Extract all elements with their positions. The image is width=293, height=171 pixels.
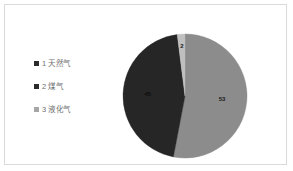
pie-slice[interactable] <box>123 34 185 156</box>
legend-swatch-icon <box>34 61 39 66</box>
legend-item[interactable]: 1 天然气 <box>34 52 120 75</box>
legend-swatch-icon <box>34 107 39 112</box>
pie-data-label: 45 <box>144 91 151 97</box>
legend-swatch-icon <box>34 84 39 89</box>
chart-legend: 1 天然气 2 煤气 3 液化气 <box>34 52 120 121</box>
pie-chart-svg: 53452 <box>120 26 250 166</box>
legend-item[interactable]: 3 液化气 <box>34 98 120 121</box>
pie-data-label: 53 <box>219 96 226 102</box>
chart-plot-area: 1 天然气 2 煤气 3 液化气 53452 <box>8 8 283 161</box>
pie-slice-group <box>123 34 247 158</box>
legend-item[interactable]: 2 煤气 <box>34 75 120 98</box>
chart-frame: 1 天然气 2 煤气 3 液化气 53452 <box>4 4 287 165</box>
pie-chart: 53452 <box>120 26 250 166</box>
legend-item-label: 3 液化气 <box>42 106 70 114</box>
legend-item-label: 2 煤气 <box>42 83 63 91</box>
legend-item-label: 1 天然气 <box>42 60 70 68</box>
